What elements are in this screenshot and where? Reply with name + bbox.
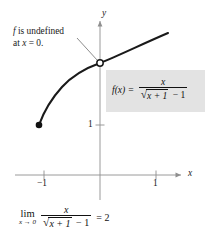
limit-minus-one: − 1 — [76, 217, 89, 228]
undefined-annotation-line1: f is undefined — [13, 26, 64, 36]
limit-radicand: x + 1 — [48, 217, 71, 230]
limit-expression: lim x → 0 x √ x + 1 − 1 = 2 — [19, 204, 109, 230]
figure-container: f is undefined at x = 0. y x −1 1 1 f(x)… — [0, 0, 205, 242]
formula-lhs: f(x) — [112, 84, 125, 95]
formula-fraction: x √ x + 1 − 1 — [139, 76, 188, 102]
limit-numerator: x — [59, 204, 73, 215]
x-symbol-annotation: x — [22, 38, 26, 48]
formula-minus-one: − 1 — [173, 89, 186, 100]
limit-radical: √ x + 1 — [43, 217, 72, 230]
equals-zero-text: = 0. — [29, 38, 44, 48]
formula-expression: f(x) = x √ x + 1 − 1 — [112, 76, 189, 102]
f-symbol: f — [13, 26, 16, 36]
limit-fraction: x √ x + 1 − 1 — [41, 204, 91, 230]
formula-radical: √ x + 1 — [141, 89, 169, 102]
filled-endpoint-dot — [36, 122, 43, 129]
limit-radicand-text: x + 1 — [48, 218, 71, 229]
limit-radical-overbar — [48, 217, 71, 218]
x-axis-label: x — [188, 168, 192, 178]
limit-result: = 2 — [96, 212, 109, 223]
undefined-annotation-line2: at x = 0. — [13, 38, 43, 48]
y-tick-label-1: 1 — [88, 119, 93, 129]
limit-operator: lim x → 0 — [19, 208, 36, 226]
undefined-annotation: f is undefined at x = 0. — [13, 26, 93, 49]
radical-overbar — [146, 89, 168, 90]
formula-denominator: √ x + 1 − 1 — [139, 88, 188, 102]
y-axis-label: y — [102, 8, 106, 18]
at-text: at — [13, 38, 20, 48]
limit-denominator: √ x + 1 − 1 — [41, 216, 91, 230]
limit-subscript: x → 0 — [19, 218, 36, 226]
y-axis-arrow — [98, 21, 103, 27]
open-circle-marker — [97, 60, 103, 66]
formula-radicand: x + 1 — [146, 89, 168, 102]
formula-numerator: x — [156, 76, 170, 87]
x-tick-label-pos1: 1 — [153, 178, 158, 188]
undefined-text: is undefined — [18, 26, 64, 36]
x-tick-label-neg1: −1 — [37, 178, 47, 188]
x-axis-arrow — [176, 173, 182, 178]
formula-equals: = — [128, 84, 133, 95]
formula-radicand-text: x + 1 — [146, 90, 168, 101]
